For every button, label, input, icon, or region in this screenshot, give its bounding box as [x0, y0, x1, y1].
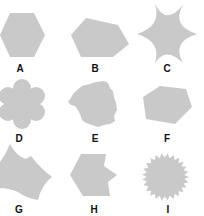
- shape-b: B: [71, 18, 129, 74]
- label-c: C: [163, 63, 170, 74]
- label-d: D: [15, 133, 22, 144]
- label-i: I: [167, 204, 170, 215]
- label-a: A: [16, 63, 23, 74]
- shape-c: C: [137, 4, 197, 74]
- shape-g: G: [0, 144, 52, 215]
- label-b: B: [91, 63, 98, 74]
- shape-d: D: [0, 79, 45, 144]
- label-h: H: [90, 204, 97, 215]
- label-e: E: [92, 133, 99, 144]
- shapes-figure: A B C D E F G H I: [0, 0, 204, 216]
- shape-i: I: [142, 154, 189, 216]
- shape-h: H: [70, 154, 117, 215]
- shape-f: F: [143, 86, 192, 144]
- shape-a: A: [0, 13, 45, 74]
- shape-e: E: [68, 81, 117, 144]
- label-f: F: [164, 133, 170, 144]
- label-g: G: [15, 204, 23, 215]
